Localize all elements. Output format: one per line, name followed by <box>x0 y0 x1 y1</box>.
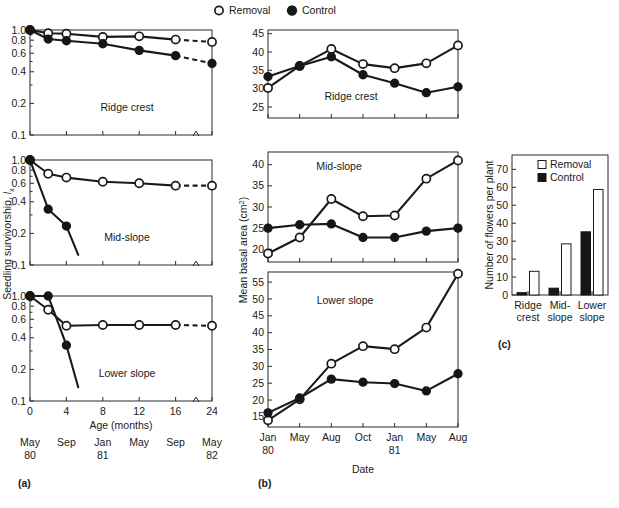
data-point-control <box>26 26 34 34</box>
data-point-removal <box>422 59 430 67</box>
x-tick-label-2: slope <box>579 311 604 323</box>
data-point-control <box>63 222 71 230</box>
bar-removal <box>562 244 572 295</box>
y-tick-label: 30 <box>252 82 264 94</box>
data-point-control <box>454 224 462 232</box>
data-point-control <box>327 375 335 383</box>
y-tick-label: 20 <box>252 394 264 406</box>
y-tick-label: 0.8 <box>11 164 26 176</box>
legend-label-control: Control <box>302 4 336 16</box>
data-point-control <box>44 35 52 43</box>
y-tick-label: 40 <box>252 158 264 170</box>
legend-open-circle-icon <box>215 6 223 14</box>
x-tick-label: Mid- <box>550 299 571 311</box>
x-tick-label: 8 <box>100 405 106 417</box>
figure-legend: RemovalControl <box>215 4 336 16</box>
data-point-control <box>208 60 216 68</box>
data-point-removal <box>264 249 272 257</box>
data-point-control <box>172 52 180 60</box>
data-point-removal <box>454 41 462 49</box>
plot-frame <box>268 152 458 262</box>
y-tick-label: 30 <box>496 235 508 247</box>
x-axis-title: Date <box>352 463 374 475</box>
data-point-removal <box>359 212 367 220</box>
y-tick-label: 0 <box>502 289 508 301</box>
data-point-control <box>422 89 430 97</box>
x-tick-label-2: slope <box>547 311 572 323</box>
y-tick-label: 0.4 <box>11 65 26 77</box>
date-year-label: 81 <box>97 449 109 461</box>
x-tick-label: 24 <box>206 405 218 417</box>
data-point-removal <box>135 321 143 329</box>
bar-control <box>517 293 527 295</box>
x-tick-label: Aug <box>449 431 468 443</box>
y-tick-label: 25 <box>252 101 264 113</box>
x-tick-label: Aug <box>322 431 341 443</box>
data-point-control <box>391 79 399 87</box>
data-point-control <box>63 341 71 349</box>
panel-a-letter: (a) <box>18 477 31 489</box>
data-point-removal <box>44 306 52 314</box>
x-tick-label: Oct <box>355 431 371 443</box>
legend-filled-circle-icon <box>288 6 297 15</box>
y-tick-label: 50 <box>252 293 264 305</box>
data-point-removal <box>422 323 430 331</box>
data-point-control <box>99 40 107 48</box>
date-year-label: 82 <box>206 449 218 461</box>
x-tick-label: May <box>290 431 311 443</box>
panel-b-subplot-b-lower-slope: 152025303540455055Lower slope <box>252 270 462 427</box>
y-tick-label: 15 <box>252 410 264 422</box>
data-point-removal <box>99 178 107 186</box>
data-point-control <box>391 234 399 242</box>
bar-control <box>549 288 559 295</box>
x-tick-label: Ridge <box>514 299 542 311</box>
data-point-removal <box>135 32 143 40</box>
panel-b-subplot-b-ridge-crest: 2530354045Ridge crest <box>252 27 462 118</box>
data-point-removal <box>62 322 70 330</box>
data-point-removal <box>454 156 462 164</box>
data-point-removal <box>62 173 70 181</box>
date-year-label: 80 <box>24 449 36 461</box>
legend-swatch-control <box>538 174 546 182</box>
data-point-removal <box>208 322 216 330</box>
x-tick-label: Jan <box>386 431 403 443</box>
subplot-title: Lower slope <box>99 367 156 379</box>
data-point-control <box>327 53 335 61</box>
panel-c-barchart: 010203040506070RidgecrestMid-slopeLowers… <box>483 155 608 350</box>
legend-label-removal: Removal <box>550 158 591 170</box>
series-line-dashed-removal <box>176 40 212 42</box>
data-point-control <box>359 378 367 386</box>
y-tick-label: 10 <box>496 271 508 283</box>
y-tick-label: 70 <box>496 163 508 175</box>
data-point-control <box>296 394 304 402</box>
y-tick-label: 40 <box>252 326 264 338</box>
data-point-control <box>327 220 335 228</box>
y-tick-label: 0.6 <box>11 47 26 59</box>
legend-swatch-removal <box>538 161 546 169</box>
y-tick-label: 60 <box>496 181 508 193</box>
data-point-control <box>63 37 71 45</box>
y-tick-label: 0.4 <box>11 195 26 207</box>
bar-removal <box>594 189 604 295</box>
y-tick-label: 30 <box>252 360 264 372</box>
y-tick-label: 40 <box>496 217 508 229</box>
panel-b-letter: (b) <box>258 477 271 489</box>
y-tick-label: 45 <box>252 309 264 321</box>
panel-c-letter: (c) <box>498 338 511 350</box>
data-point-removal <box>327 195 335 203</box>
y-tick-label: 0.2 <box>11 363 26 375</box>
y-tick-label: 20 <box>252 243 264 255</box>
data-point-removal <box>135 179 143 187</box>
data-point-removal <box>391 345 399 353</box>
date-tick-label: Sep <box>57 436 76 448</box>
data-point-removal <box>391 211 399 219</box>
series-tail-control <box>66 345 78 387</box>
subplot-title: Mid-slope <box>316 160 362 172</box>
data-point-control <box>44 205 52 213</box>
y-tick-label: 0.8 <box>11 300 26 312</box>
data-point-control <box>454 370 462 378</box>
x-tick-label: May <box>416 431 437 443</box>
date-tick-label: May <box>129 436 150 448</box>
y-tick-label: 30 <box>252 201 264 213</box>
data-point-control <box>264 224 272 232</box>
